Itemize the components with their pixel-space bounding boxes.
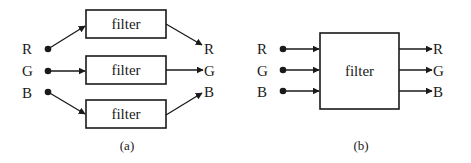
input-label-g: G xyxy=(257,63,268,79)
output-label-r: R xyxy=(204,41,214,57)
arrow-out-b xyxy=(166,93,202,115)
output-label-g: G xyxy=(204,63,215,79)
panel-b: R G B filter R G B (b) xyxy=(257,33,444,153)
input-label-b: B xyxy=(257,84,267,100)
panel-a: R G B filter filter filter R G B (a) xyxy=(22,10,215,153)
output-label-r: R xyxy=(433,41,443,57)
arrow-in-r xyxy=(48,26,85,49)
filter-label: filter xyxy=(345,63,374,79)
output-label-g: G xyxy=(433,63,444,79)
arrow-in-b xyxy=(48,92,85,114)
input-label-b: B xyxy=(22,85,32,101)
filter-label-top: filter xyxy=(111,16,140,32)
filter-label-bottom: filter xyxy=(111,106,140,122)
input-label-r: R xyxy=(257,41,267,57)
output-label-b: B xyxy=(433,84,443,100)
caption-b: (b) xyxy=(353,138,368,153)
caption-a: (a) xyxy=(120,138,134,153)
arrow-out-r xyxy=(166,24,202,45)
input-label-r: R xyxy=(22,41,32,57)
filter-label-middle: filter xyxy=(111,62,140,78)
input-label-g: G xyxy=(22,63,33,79)
diagram-canvas: R G B filter filter filter R G B (a) R G xyxy=(0,0,471,163)
output-label-b: B xyxy=(204,84,214,100)
